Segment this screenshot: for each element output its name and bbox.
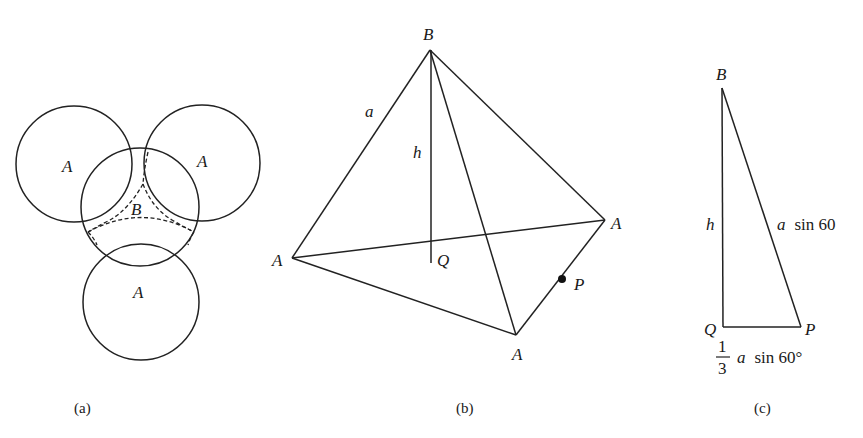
dashed-arc-bottom xyxy=(88,218,194,233)
figure-canvas: A A A B (a) B A A A a h Q P (b) B Q P xyxy=(0,0,863,438)
label-a-bottom: A xyxy=(132,283,144,302)
label-point-p: P xyxy=(573,275,584,294)
hyp-a: a xyxy=(777,215,786,234)
caption-a: (a) xyxy=(74,400,91,417)
caption-b: (b) xyxy=(456,400,474,417)
circle-top-left xyxy=(16,106,132,222)
label-hypotenuse: a sin 60 xyxy=(777,215,836,234)
base-sin: sin 60° xyxy=(755,348,803,367)
label-a-top-right: A xyxy=(196,152,208,171)
panel-c: B Q P h a sin 60 1 3 a sin 60° (c) xyxy=(704,65,836,417)
edge-b-left-a xyxy=(292,50,430,258)
panel-a: A A A B (a) xyxy=(16,105,260,417)
label-leg-h: h xyxy=(706,215,715,234)
hyp-sin: sin 60 xyxy=(795,215,836,234)
label-p: P xyxy=(804,320,815,339)
label-foot-q: Q xyxy=(437,251,449,270)
label-b-center: B xyxy=(131,200,142,219)
panel-b: B A A A a h Q P (b) xyxy=(271,25,622,417)
label-vertex-bottom-a: A xyxy=(511,345,523,364)
edge-left-a-bottom-a xyxy=(292,258,516,335)
base-a: a xyxy=(737,348,746,367)
label-top-b: B xyxy=(716,65,727,84)
point-p xyxy=(558,275,566,283)
label-edge-a: a xyxy=(365,102,374,121)
label-base-rest: a sin 60° xyxy=(737,348,802,367)
label-vertex-left-a: A xyxy=(271,251,283,270)
label-vertex-right-a: A xyxy=(610,214,622,233)
fraction-numerator: 1 xyxy=(718,337,727,356)
label-a-top-left: A xyxy=(61,157,73,176)
label-apex-b: B xyxy=(423,25,434,44)
circle-bottom xyxy=(83,244,199,360)
label-q: Q xyxy=(704,320,716,339)
label-height-h: h xyxy=(413,143,422,162)
dashed-arc-bottom-right-ext xyxy=(188,232,194,245)
caption-c: (c) xyxy=(754,400,771,417)
fraction-denominator: 3 xyxy=(718,359,727,378)
leg-vertical-bq xyxy=(722,88,723,327)
hypotenuse-bp xyxy=(722,88,801,327)
